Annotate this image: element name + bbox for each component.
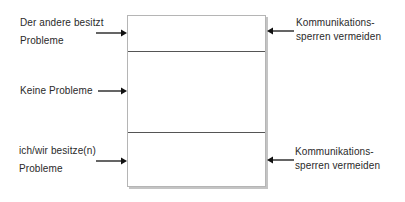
label-line: ich/wir besitze(n) — [19, 144, 96, 158]
arrow-left-icon — [266, 155, 296, 165]
label-i-we-have-problems: ich/wir besitze(n) Probleme — [19, 144, 96, 176]
label-avoid-communication-barriers: Kommunikations- sperren vermeiden — [296, 16, 381, 44]
section-divider-bottom — [128, 132, 265, 133]
section-divider-top — [128, 51, 265, 52]
label-other-has-problems: Der andere besitzt Probleme — [20, 16, 104, 48]
arrow-right-icon — [96, 28, 128, 38]
label-line: Probleme — [20, 34, 104, 48]
label-line: Probleme — [19, 162, 96, 176]
label-line: Der andere besitzt — [20, 16, 104, 30]
label-line: Keine Probleme — [20, 84, 93, 98]
arrow-left-icon — [266, 26, 296, 36]
label-line: Kommunikations- — [295, 145, 380, 159]
arrow-right-icon — [98, 86, 128, 96]
label-line: sperren vermeiden — [295, 159, 380, 173]
label-avoid-communication-barriers: Kommunikations- sperren vermeiden — [295, 145, 380, 173]
arrow-right-icon — [96, 156, 128, 166]
label-line: Kommunikations- — [296, 16, 381, 30]
three-section-box — [127, 15, 266, 187]
label-no-problems: Keine Probleme — [20, 84, 93, 98]
label-line: sperren vermeiden — [296, 30, 381, 44]
